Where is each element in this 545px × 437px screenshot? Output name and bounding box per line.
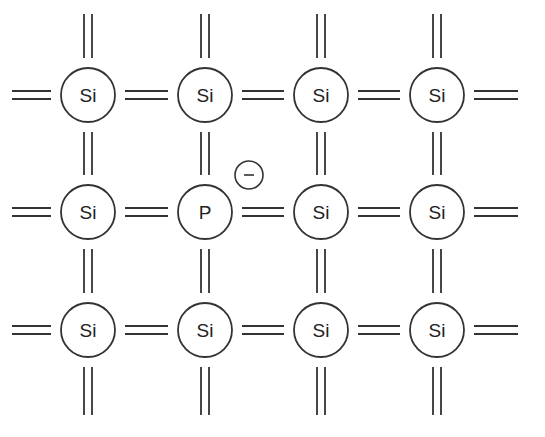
atom-label: Si xyxy=(197,85,214,106)
atom-label: Si xyxy=(80,320,97,341)
atom-label: Si xyxy=(80,85,97,106)
atom-label: Si xyxy=(197,320,214,341)
atom-label: Si xyxy=(429,320,446,341)
atom-label: P xyxy=(199,202,212,223)
atom-label: Si xyxy=(429,202,446,223)
silicon-lattice-diagram: SiSiSiSiSiPSiSiSiSiSiSi xyxy=(0,0,545,437)
atom-label: Si xyxy=(313,85,330,106)
atom-label: Si xyxy=(80,202,97,223)
atom-label: Si xyxy=(429,85,446,106)
atom-label: Si xyxy=(313,202,330,223)
atom-label: Si xyxy=(313,320,330,341)
